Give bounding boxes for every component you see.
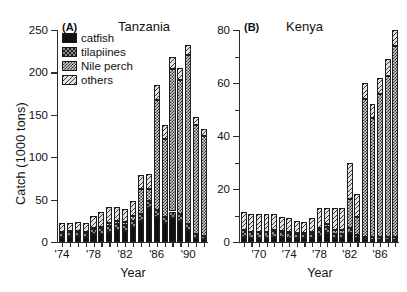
bar-1989 — [177, 30, 183, 242]
panel-a-bars — [58, 30, 208, 242]
bar-segment-others — [241, 212, 247, 230]
panel-a-x-axis-title: Year — [78, 266, 188, 280]
panel-b-ytick-minor-10 — [235, 216, 239, 217]
bar-segment-nileperch — [392, 46, 398, 237]
bar-segment-catfish — [90, 234, 96, 242]
bar-segment-nileperch — [354, 217, 360, 236]
bar-1988 — [392, 30, 398, 242]
bar-1978 — [317, 30, 323, 242]
bar-segment-catfish — [169, 218, 175, 242]
bar-segment-nileperch — [339, 230, 345, 234]
xtick-1988 — [172, 242, 173, 247]
bar-segment-others — [162, 125, 168, 139]
bar-segment-catfish — [122, 231, 128, 242]
bar-1978 — [90, 30, 96, 242]
bar-segment-others — [301, 222, 307, 233]
bar-1972 — [271, 30, 277, 242]
xtick-1976 — [304, 242, 305, 247]
bar-segment-nileperch — [162, 139, 168, 217]
bar-segment-others — [385, 59, 391, 75]
bar-1975 — [294, 30, 300, 242]
panel-a-ylabel-100: 100 — [16, 151, 48, 163]
bar-1977 — [309, 30, 315, 242]
xtick-1981 — [117, 242, 118, 247]
bar-segment-catfish — [98, 234, 104, 242]
bar-segment-others — [67, 223, 73, 231]
xtick-1981 — [342, 242, 343, 247]
bar-segment-nileperch — [185, 55, 191, 225]
bar-segment-tilapiines — [309, 234, 315, 239]
xtick-1986 — [157, 242, 158, 247]
bar-segment-others — [106, 207, 112, 223]
xtick-label-1982: '82 — [110, 248, 140, 260]
figure-root: (A) Tanzania Catch (1000 tons) 250 200 1… — [0, 0, 407, 292]
bar-segment-tilapiines — [67, 232, 73, 236]
bar-segment-tilapiines — [177, 214, 183, 221]
xtick-1976 — [78, 242, 79, 247]
xtick-1970 — [259, 242, 260, 247]
xtick-1972 — [274, 242, 275, 247]
bar-segment-tilapiines — [98, 228, 104, 233]
bar-1991 — [193, 30, 199, 242]
bar-1987 — [385, 30, 391, 242]
xtick-1974 — [289, 242, 290, 247]
panel-tanzania: (A) Tanzania Catch (1000 tons) 250 200 1… — [0, 0, 210, 292]
bar-1982 — [347, 30, 353, 242]
bar-segment-tilapiines — [106, 226, 112, 232]
bar-1988 — [169, 30, 175, 242]
bar-segment-tilapiines — [271, 231, 277, 237]
bar-segment-others — [130, 201, 136, 215]
xtick-1988 — [395, 242, 396, 247]
xtick-label-1982: '82 — [335, 248, 365, 260]
bar-segment-others — [286, 218, 292, 232]
bar-1990 — [185, 30, 191, 242]
bar-segment-tilapiines — [122, 225, 128, 231]
bar-1971 — [264, 30, 270, 242]
panel-b-ytick-80 — [233, 30, 239, 31]
bar-1983 — [130, 30, 136, 242]
bar-segment-tilapiines — [377, 237, 383, 240]
panel-a-ylabel-0: 0 — [16, 236, 48, 248]
bar-segment-tilapiines — [162, 217, 168, 224]
xtick-1982 — [350, 242, 351, 247]
xtick-1980 — [335, 242, 336, 247]
bar-segment-others — [309, 218, 315, 232]
bar-segment-catfish — [185, 230, 191, 242]
bar-segment-nileperch — [370, 118, 376, 237]
bar-segment-catfish — [177, 221, 183, 242]
bar-segment-tilapiines — [130, 221, 136, 227]
bar-segment-others — [177, 68, 183, 80]
bar-segment-nileperch — [169, 69, 175, 211]
bar-segment-nileperch — [177, 80, 183, 214]
bar-segment-nileperch — [138, 189, 144, 214]
bar-segment-nileperch — [332, 230, 338, 233]
xtick-label-1970: '70 — [244, 248, 274, 260]
bar-1987 — [162, 30, 168, 242]
bar-segment-tilapiines — [294, 234, 300, 238]
xtick-1978 — [94, 242, 95, 247]
bar-segment-tilapiines — [169, 212, 175, 219]
bar-segment-nileperch — [377, 94, 383, 237]
xtick-label-1986: '86 — [142, 248, 172, 260]
bar-segment-catfish — [106, 232, 112, 242]
panel-a-ylabel-250: 250 — [16, 24, 48, 36]
bar-segment-others — [332, 208, 338, 231]
xtick-1968 — [244, 242, 245, 247]
bar-segment-tilapiines — [324, 227, 330, 233]
xtick-1991 — [196, 242, 197, 247]
bar-1969 — [248, 30, 254, 242]
bar-segment-tilapiines — [279, 232, 285, 237]
bar-segment-others — [354, 194, 360, 216]
bar-segment-others — [392, 30, 398, 46]
bar-segment-tilapiines — [286, 233, 292, 238]
bar-segment-nileperch — [114, 221, 120, 224]
bar-1983 — [354, 30, 360, 242]
bar-segment-tilapiines — [154, 210, 160, 217]
xtick-1983 — [133, 242, 134, 247]
panel-a-ylabel-50: 50 — [16, 194, 48, 206]
xtick-1984 — [141, 242, 142, 247]
bar-segment-tilapiines — [241, 230, 247, 236]
bar-segment-tilapiines — [354, 235, 360, 238]
xtick-1978 — [320, 242, 321, 247]
bar-segment-nileperch — [154, 100, 160, 210]
